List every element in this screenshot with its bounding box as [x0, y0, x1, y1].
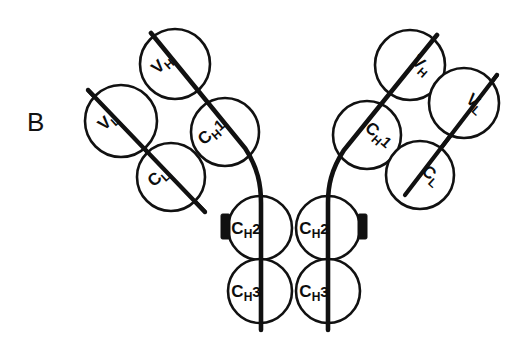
antibody-domain-diagram: VHVLCH1CLVHVLCH1CLCH2CH2CH3CH3 B — [0, 0, 525, 341]
figure-panel-b: VHVLCH1CLVHVLCH1CLCH2CH2CH3CH3 B — [0, 0, 525, 341]
right-hinge-tab — [358, 214, 367, 239]
left-hinge-tab — [221, 214, 230, 239]
panel-letter-b: B — [27, 107, 44, 137]
